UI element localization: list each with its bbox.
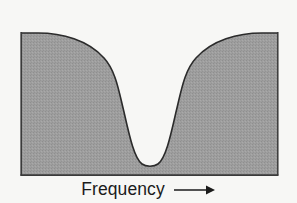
figure-root: Frequency: [0, 0, 297, 203]
notch-response-plot: [0, 0, 297, 203]
plot-area: [20, 32, 278, 176]
x-axis-caption: Frequency: [0, 176, 297, 203]
arrow-right-icon: [174, 184, 216, 196]
response-fill-area: [21, 33, 278, 175]
x-axis-label: Frequency: [81, 181, 165, 199]
